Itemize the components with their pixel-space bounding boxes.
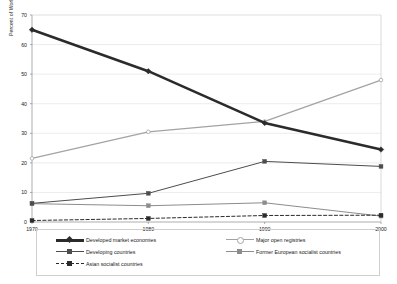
- y-tick-label: 70: [13, 12, 27, 18]
- data-point-marker: [263, 201, 267, 205]
- legend-swatch-icon: [55, 234, 85, 245]
- y-tick-label: 0: [13, 219, 27, 225]
- legend-item[interactable]: Asian socialist countries: [55, 258, 143, 269]
- legend-item[interactable]: Major open registries: [225, 234, 305, 245]
- legend-marker-icon: [237, 249, 242, 254]
- series-line: [32, 215, 381, 220]
- legend-swatch-icon: [225, 246, 255, 257]
- data-point-marker: [379, 164, 383, 168]
- series-line: [32, 161, 381, 203]
- data-point-marker: [146, 204, 150, 208]
- series-1: [30, 78, 383, 160]
- data-point-marker: [263, 159, 267, 163]
- legend-label: Developed market economies: [85, 237, 156, 243]
- legend-item[interactable]: Developed market economies: [55, 234, 156, 245]
- series-line: [32, 30, 381, 150]
- chart-legend: Developed market economiesDeveloping cou…: [36, 229, 380, 276]
- data-point-marker: [30, 219, 34, 223]
- legend-marker-icon: [67, 261, 72, 266]
- legend-swatch-icon: [55, 258, 85, 269]
- series-2: [30, 159, 383, 205]
- y-tick-label: 10: [13, 189, 27, 195]
- data-point-marker: [147, 130, 151, 134]
- data-point-marker: [379, 78, 383, 82]
- legend-label: Developing countries: [85, 249, 135, 255]
- legend-marker-icon: [67, 249, 72, 254]
- legend-label: Major open registries: [255, 237, 305, 243]
- legend-marker-icon: [237, 237, 244, 244]
- legend-swatch-icon: [225, 234, 255, 245]
- data-point-marker: [146, 216, 150, 220]
- data-point-marker: [378, 147, 384, 153]
- y-tick-label: 50: [13, 71, 27, 77]
- legend-swatch-icon: [55, 246, 85, 257]
- series-0: [29, 27, 384, 152]
- data-point-marker: [263, 214, 267, 218]
- legend-item[interactable]: Former European socialist countries: [225, 246, 341, 257]
- y-tick-label: 20: [13, 160, 27, 166]
- y-tick-label: 60: [13, 42, 27, 48]
- chart-figure: Percent of World total (DWT) 01020304050…: [0, 0, 397, 284]
- y-tick-label: 30: [13, 130, 27, 136]
- legend-label: Asian socialist countries: [85, 261, 143, 267]
- legend-item[interactable]: Developing countries: [55, 246, 135, 257]
- data-point-marker: [379, 213, 383, 217]
- data-point-marker: [30, 201, 34, 205]
- data-point-marker: [146, 191, 150, 195]
- series-line: [32, 80, 381, 158]
- legend-label: Former European socialist countries: [255, 249, 341, 255]
- series-line: [32, 203, 381, 216]
- data-point-marker: [30, 157, 34, 161]
- y-tick-label: 40: [13, 101, 27, 107]
- series-4: [30, 213, 383, 222]
